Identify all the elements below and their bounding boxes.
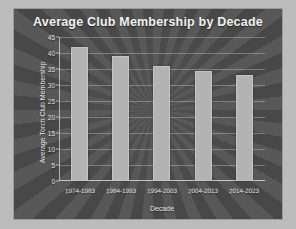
bar-slot	[59, 37, 100, 181]
x-tick-label: 2004-2013	[188, 187, 218, 194]
x-tick-label: 1984-1993	[106, 187, 136, 194]
y-tick-label: 15	[48, 130, 55, 137]
x-tick-label: 1994-2003	[147, 187, 177, 194]
bar[interactable]	[195, 71, 212, 181]
y-tick-label: 25	[48, 98, 55, 105]
bar-slot	[141, 37, 182, 181]
chart-title: Average Club Membership by Decade	[14, 15, 282, 29]
y-tick-label: 40	[48, 50, 55, 57]
y-tick-label: 20	[48, 114, 55, 121]
y-axis-title: Average Torch Club Membership	[39, 45, 46, 181]
x-tick-label: 2014-2023	[229, 187, 259, 194]
y-tick-label: 30	[48, 82, 55, 89]
chart-figure: Average Club Membership by Decade 051015…	[0, 0, 296, 229]
bar-slot	[224, 37, 265, 181]
bar[interactable]	[71, 47, 88, 181]
bar[interactable]	[112, 56, 129, 181]
x-tick-label: 1974-1983	[65, 187, 95, 194]
y-tick-label: 45	[48, 34, 55, 41]
x-axis-title: Decade	[59, 205, 265, 212]
y-tick-label: 5	[51, 162, 55, 169]
plot-area: 051015202530354045 1974-19831984-1993199…	[59, 37, 265, 181]
bar-slot	[183, 37, 224, 181]
y-tick-label: 0	[51, 178, 55, 185]
bar[interactable]	[153, 66, 170, 181]
bar-slot	[100, 37, 141, 181]
bar[interactable]	[236, 75, 253, 181]
y-tick-label: 10	[48, 146, 55, 153]
chart-plot-background: Average Club Membership by Decade 051015…	[13, 8, 283, 220]
bar-series	[59, 37, 265, 181]
y-tick-label: 35	[48, 66, 55, 73]
